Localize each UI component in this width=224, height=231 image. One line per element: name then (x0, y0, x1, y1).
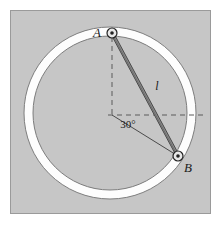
diagram-svg: A B l 30° (0, 0, 224, 231)
figure-container: A B l 30° (0, 0, 224, 231)
pin-joint-b (173, 151, 183, 161)
label-angle-30: 30° (120, 118, 135, 130)
label-point-a: A (92, 25, 101, 40)
label-point-b: B (184, 160, 192, 175)
gray-background-panel (11, 11, 211, 214)
pin-joint-a (107, 28, 117, 38)
